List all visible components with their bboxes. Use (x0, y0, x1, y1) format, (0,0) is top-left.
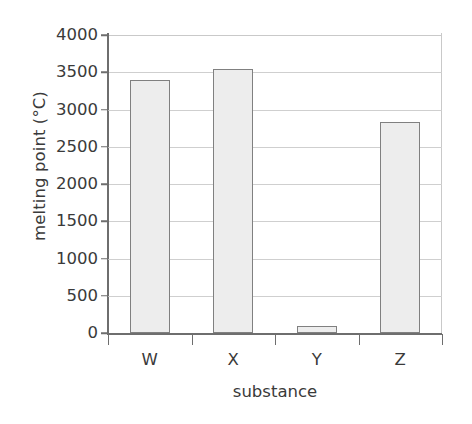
y-tick-label: 1000 (40, 250, 98, 267)
y-tick-label: 2000 (40, 176, 98, 193)
y-axis-tick-labels: 05001000150020002500300035004000 (40, 0, 98, 424)
bar-w (130, 80, 170, 333)
x-axis-title: substance (108, 382, 442, 401)
y-tick-mark (101, 258, 109, 260)
x-tick-mark (108, 334, 109, 345)
bar-y (297, 326, 337, 333)
y-tick-label: 3000 (40, 101, 98, 118)
y-tick-label: 4000 (40, 27, 98, 44)
bar-z (380, 122, 420, 333)
x-tick-label-w: W (120, 352, 180, 369)
y-tick-mark (101, 109, 109, 111)
y-tick-mark (101, 72, 109, 74)
y-tick-label: 3500 (40, 64, 98, 81)
x-tick-mark (442, 334, 443, 345)
y-tick-mark (101, 146, 109, 148)
x-tick-label-x: X (203, 352, 263, 369)
y-tick-mark (101, 34, 109, 36)
bars-layer (108, 35, 442, 333)
bar-chart-figure: melting point (°C) 050010001500200025003… (0, 0, 472, 424)
y-tick-label: 1500 (40, 213, 98, 230)
bar-x (213, 69, 253, 333)
x-tick-mark (359, 334, 360, 345)
x-tick-label-y: Y (287, 352, 347, 369)
y-tick-mark (101, 183, 109, 185)
y-tick-label: 0 (40, 325, 98, 342)
x-tick-mark (275, 334, 276, 345)
y-tick-label: 500 (40, 288, 98, 305)
y-tick-mark (101, 221, 109, 223)
x-tick-label-z: Z (370, 352, 430, 369)
x-tick-mark (192, 334, 193, 345)
y-tick-mark (101, 295, 109, 297)
y-tick-label: 2500 (40, 139, 98, 156)
